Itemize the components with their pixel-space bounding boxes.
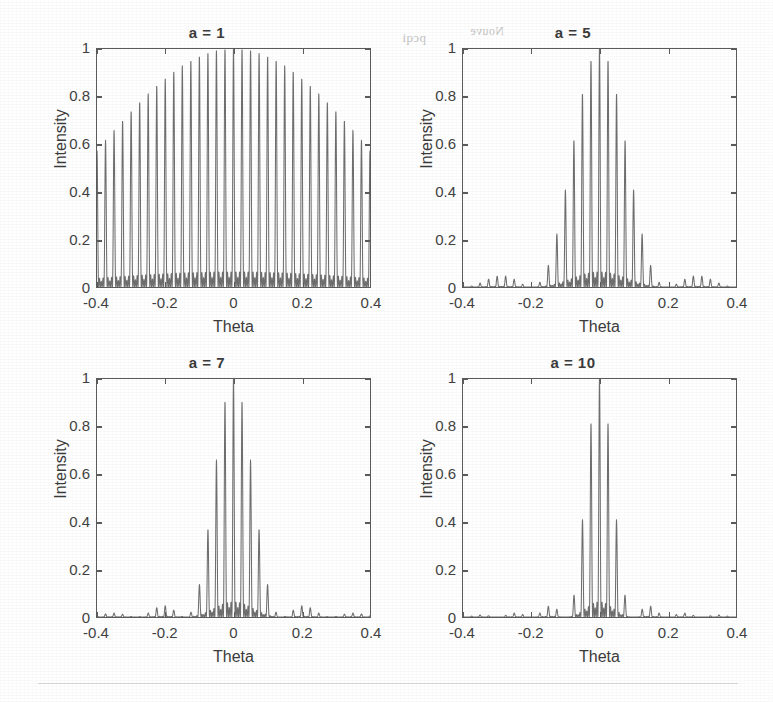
y-tick-label: 0.6 <box>32 136 90 151</box>
x-tick-mark <box>234 612 235 617</box>
y-tick-mark <box>463 192 468 193</box>
y-tick-label: 0.6 <box>32 466 90 481</box>
y-tick-label: 0.2 <box>32 562 90 577</box>
x-tick-mark-top <box>669 379 670 384</box>
x-tick-label: 0 <box>204 295 264 310</box>
y-tick-mark <box>97 378 102 379</box>
x-tick-label: 0.2 <box>272 295 332 310</box>
y-tick-mark <box>463 426 468 427</box>
x-tick-label: -0.2 <box>501 625 561 640</box>
x-tick-label: 0 <box>570 295 630 310</box>
y-tick-mark-right <box>365 192 370 193</box>
y-tick-mark-right <box>731 144 736 145</box>
y-tick-label: 0 <box>398 280 456 295</box>
y-tick-mark <box>463 522 468 523</box>
y-tick-label: 0.6 <box>398 136 456 151</box>
x-tick-mark-top <box>600 379 601 384</box>
y-tick-label: 0 <box>32 610 90 625</box>
axes-box <box>462 48 737 288</box>
y-tick-mark <box>97 426 102 427</box>
x-tick-mark <box>531 612 532 617</box>
x-tick-label: 0.4 <box>341 295 401 310</box>
x-tick-mark <box>600 612 601 617</box>
axes-box <box>96 48 371 288</box>
y-tick-label: 1 <box>32 370 90 385</box>
x-tick-label: 0.4 <box>707 625 767 640</box>
y-tick-mark-right <box>731 426 736 427</box>
x-tick-mark-top <box>669 49 670 54</box>
y-tick-mark <box>97 144 102 145</box>
axes-box <box>462 378 737 618</box>
y-tick-label: 0 <box>32 280 90 295</box>
x-tick-mark-top <box>531 49 532 54</box>
x-tick-mark <box>96 282 97 287</box>
x-axis-title: Theta <box>462 648 737 666</box>
x-tick-label: -0.2 <box>135 625 195 640</box>
x-tick-mark-top <box>462 49 463 54</box>
x-tick-mark <box>165 612 166 617</box>
y-tick-mark-right <box>365 48 370 49</box>
y-tick-mark <box>97 522 102 523</box>
x-tick-label: 0.4 <box>707 295 767 310</box>
y-tick-label: 0.4 <box>398 184 456 199</box>
y-tick-mark-right <box>365 426 370 427</box>
plot-curve-a10 <box>463 379 736 617</box>
figure-container: a = 1 Intensity Theta 00.20.40.60.81-0.4… <box>0 0 773 702</box>
x-tick-mark <box>303 282 304 287</box>
plot-panel-a1: a = 1 Intensity Theta 00.20.40.60.81-0.4… <box>32 18 382 348</box>
x-tick-mark <box>96 612 97 617</box>
y-tick-mark-right <box>731 378 736 379</box>
y-tick-mark-right <box>731 522 736 523</box>
y-tick-label: 0.2 <box>32 232 90 247</box>
x-tick-label: 0 <box>204 625 264 640</box>
y-tick-mark <box>97 474 102 475</box>
y-tick-label: 0 <box>398 610 456 625</box>
x-tick-mark-top <box>303 49 304 54</box>
y-tick-label: 1 <box>398 370 456 385</box>
x-tick-mark-top <box>234 49 235 54</box>
y-tick-label: 0.2 <box>398 232 456 247</box>
y-tick-label: 0.4 <box>398 514 456 529</box>
y-tick-mark <box>463 378 468 379</box>
y-tick-label: 0.6 <box>398 466 456 481</box>
x-tick-label: -0.2 <box>135 295 195 310</box>
x-tick-label: -0.4 <box>432 295 492 310</box>
y-tick-mark-right <box>365 522 370 523</box>
plot-panel-a5: a = 5 Intensity Theta 00.20.40.60.81-0.4… <box>398 18 748 348</box>
x-tick-mark <box>531 282 532 287</box>
x-tick-mark-top <box>165 49 166 54</box>
y-tick-mark-right <box>365 96 370 97</box>
y-tick-label: 1 <box>398 40 456 55</box>
x-tick-mark-top <box>303 379 304 384</box>
y-tick-mark-right <box>731 570 736 571</box>
x-tick-label: -0.4 <box>66 295 126 310</box>
y-tick-mark-right <box>365 570 370 571</box>
x-tick-mark-top <box>96 379 97 384</box>
y-tick-mark-right <box>365 240 370 241</box>
x-tick-label: -0.2 <box>501 295 561 310</box>
x-axis-title: Theta <box>462 318 737 336</box>
y-tick-mark-right <box>365 474 370 475</box>
y-tick-label: 0.8 <box>398 88 456 103</box>
y-tick-mark <box>463 144 468 145</box>
x-axis-title: Theta <box>96 648 371 666</box>
plot-panel-a10: a = 10 Intensity Theta 00.20.40.60.81-0.… <box>398 348 748 678</box>
plot-panel-a7: a = 7 Intensity Theta 00.20.40.60.81-0.4… <box>32 348 382 678</box>
y-tick-mark-right <box>731 474 736 475</box>
y-tick-label: 0.8 <box>32 88 90 103</box>
y-tick-mark-right <box>365 378 370 379</box>
y-tick-mark <box>97 192 102 193</box>
y-tick-mark-right <box>731 96 736 97</box>
y-tick-mark-right <box>731 48 736 49</box>
x-tick-label: 0.2 <box>638 295 698 310</box>
y-tick-mark <box>97 96 102 97</box>
x-tick-mark-top <box>165 379 166 384</box>
y-tick-mark <box>463 240 468 241</box>
y-tick-mark-right <box>731 240 736 241</box>
y-tick-mark <box>463 474 468 475</box>
x-tick-mark-top <box>234 379 235 384</box>
y-tick-mark <box>463 48 468 49</box>
y-tick-label: 1 <box>32 40 90 55</box>
x-tick-mark-top <box>462 379 463 384</box>
x-tick-label: -0.4 <box>66 625 126 640</box>
